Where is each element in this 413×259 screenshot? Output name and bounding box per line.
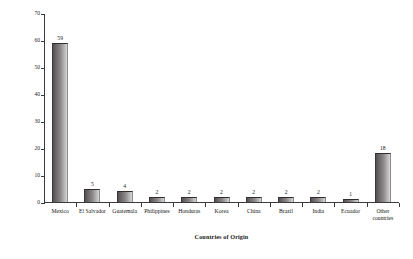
bar-value-label: 5 [91,180,94,188]
y-tick: 30 [44,122,45,123]
x-tick-mark [141,203,142,207]
plot-area: 010203040506070 5954222222118 MexicoEl S… [44,14,399,203]
y-tick-label: 70 [34,9,40,18]
bar: 59 [52,43,68,202]
y-tick-mark [41,176,45,177]
bar-value-label: 1 [349,190,352,198]
y-tick: 10 [44,176,45,177]
bar: 2 [149,197,165,202]
y-tick-mark [41,122,45,123]
bar: 4 [117,191,133,202]
bar-value-label: 2 [188,188,191,196]
y-tick-mark [41,41,45,42]
category-label: Other countries [364,208,402,223]
y-tick-label: 40 [34,90,40,99]
x-tick-mark [109,203,110,207]
y-tick-mark [41,203,45,204]
x-tick-mark [367,203,368,207]
bar-value-label: 2 [156,188,159,196]
bar-value-label: 2 [285,188,288,196]
y-axis-line [44,14,45,203]
y-tick-mark [41,95,45,96]
y-tick-label: 60 [34,36,40,45]
y-tick: 60 [44,41,45,42]
y-tick-label: 30 [34,117,40,126]
bar-value-label: 4 [123,182,126,190]
bar-value-label: 2 [252,188,255,196]
y-tick-label: 10 [34,171,40,180]
bar: 2 [246,197,262,202]
y-tick-mark [41,68,45,69]
x-axis-line [44,202,399,203]
bar: 5 [84,189,100,203]
bar-chart: Percent of Immigrants 010203040506070 59… [0,0,413,259]
bar-value-label: 59 [57,34,63,42]
x-tick-mark [173,203,174,207]
y-tick-label: 50 [34,63,40,72]
x-axis-title: Countries of Origin [44,233,399,240]
x-tick-mark [238,203,239,207]
y-tick-mark [41,149,45,150]
y-tick: 70 [44,14,45,15]
x-tick-mark [270,203,271,207]
x-tick-mark [205,203,206,207]
y-tick: 0 [44,203,45,204]
bar-value-label: 2 [317,188,320,196]
bar-value-label: 2 [220,188,223,196]
x-tick-mark [76,203,77,207]
y-tick: 20 [44,149,45,150]
y-tick-label: 20 [34,144,40,153]
x-tick-mark [334,203,335,207]
bar: 2 [310,197,326,202]
x-tick-mark [399,203,400,207]
bar: 1 [343,199,359,202]
bar: 2 [278,197,294,202]
y-tick-mark [41,14,45,15]
bar: 18 [375,153,391,202]
bar: 2 [181,197,197,202]
bar-value-label: 18 [380,144,386,152]
y-tick: 50 [44,68,45,69]
y-tick-label: 0 [37,198,40,207]
x-tick-mark [302,203,303,207]
bar: 2 [214,197,230,202]
y-tick: 40 [44,95,45,96]
